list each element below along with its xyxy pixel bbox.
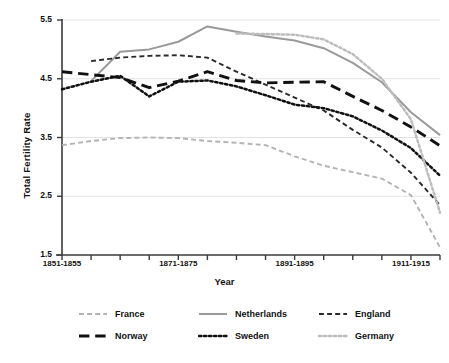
legend-swatch-netherlands bbox=[198, 309, 228, 319]
x-tick-label: 1851-1855 bbox=[43, 259, 81, 268]
series-line-france bbox=[62, 138, 440, 248]
fertility-rate-chart: Total Fertility Rate 1.52.53.54.55.5 185… bbox=[0, 0, 449, 363]
series-line-netherlands bbox=[91, 26, 440, 135]
legend-label: France bbox=[115, 309, 145, 319]
series-line-sweden bbox=[62, 76, 440, 176]
legend-item-netherlands[interactable]: Netherlands bbox=[198, 309, 318, 319]
plot-area bbox=[0, 0, 449, 300]
legend-swatch-france bbox=[78, 309, 108, 319]
x-tick-label: 1891-1895 bbox=[275, 259, 313, 268]
y-tick-label: 4.5 bbox=[26, 73, 52, 83]
legend-item-germany[interactable]: Germany bbox=[318, 331, 438, 341]
legend-label: Germany bbox=[355, 331, 394, 341]
legend-item-sweden[interactable]: Sweden bbox=[198, 331, 318, 341]
y-tick-label: 2.5 bbox=[26, 190, 52, 200]
y-tick-label: 5.5 bbox=[26, 14, 52, 24]
y-tick-label: 1.5 bbox=[26, 249, 52, 259]
legend-swatch-norway bbox=[78, 331, 108, 341]
legend-swatch-germany bbox=[318, 331, 348, 341]
x-tick-label: 1871-1875 bbox=[159, 259, 197, 268]
legend-item-england[interactable]: England bbox=[318, 309, 438, 319]
legend-label: Netherlands bbox=[235, 309, 287, 319]
x-tick-label: 1911-1915 bbox=[392, 259, 430, 268]
legend-label: Sweden bbox=[235, 331, 269, 341]
legend-item-france[interactable]: France bbox=[78, 309, 198, 319]
series-line-germany bbox=[236, 34, 440, 213]
legend-label: England bbox=[355, 309, 391, 319]
legend-swatch-sweden bbox=[198, 331, 228, 341]
legend-swatch-england bbox=[318, 309, 348, 319]
legend-label: Norway bbox=[115, 331, 148, 341]
chart-legend: FranceNetherlandsEnglandNorwaySwedenGerm… bbox=[78, 303, 438, 347]
y-tick-label: 3.5 bbox=[26, 132, 52, 142]
x-axis-title: Year bbox=[0, 276, 449, 287]
legend-item-norway[interactable]: Norway bbox=[78, 331, 198, 341]
